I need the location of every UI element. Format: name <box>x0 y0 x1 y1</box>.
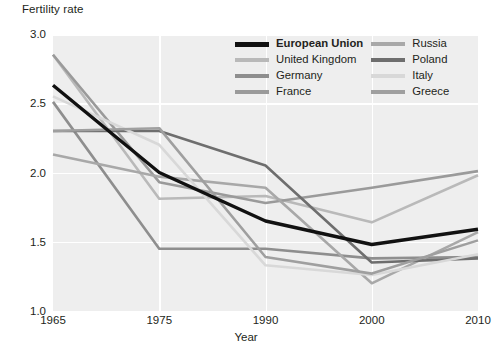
y-tick-label: 2.5 <box>2 97 46 109</box>
legend-color-swatch <box>235 58 269 62</box>
legend-item[interactable]: Germany <box>235 68 363 84</box>
y-tick-label: 3.0 <box>2 28 46 40</box>
legend-label: France <box>276 86 311 97</box>
y-tick-label: 1.5 <box>2 236 46 248</box>
legend-item[interactable]: Italy <box>371 68 467 84</box>
legend-label: Italy <box>412 70 433 81</box>
legend-item[interactable]: Poland <box>371 52 467 68</box>
legend-label: European Union <box>276 38 363 49</box>
legend-item[interactable]: France <box>235 84 363 100</box>
legend-label: Germany <box>276 70 322 81</box>
fertility-rate-line-chart: Fertility rate 1.01.52.02.53.0 196519751… <box>0 0 492 350</box>
chart-legend: European UnionRussiaUnited KingdomPoland… <box>235 36 467 100</box>
legend-color-swatch <box>235 42 269 47</box>
x-tick-label: 2010 <box>448 314 492 326</box>
x-tick-label: 1990 <box>236 314 296 326</box>
x-axis-title: Year <box>0 331 492 343</box>
x-tick-label: 2000 <box>342 314 402 326</box>
legend-color-swatch <box>371 58 405 62</box>
legend-color-swatch <box>235 74 269 78</box>
legend-color-swatch <box>235 90 269 94</box>
legend-color-swatch <box>371 42 405 46</box>
y-tick-label: 2.0 <box>2 167 46 179</box>
legend-item[interactable]: Greece <box>371 84 467 100</box>
legend-label: Poland <box>412 54 447 65</box>
legend-item[interactable]: Russia <box>371 36 467 52</box>
legend-label: Greece <box>412 86 449 97</box>
x-tick-label: 1965 <box>23 314 83 326</box>
legend-label: United Kingdom <box>276 54 356 65</box>
legend-color-swatch <box>371 90 405 94</box>
legend-label: Russia <box>412 38 447 49</box>
legend-item[interactable]: United Kingdom <box>235 52 363 68</box>
legend-item[interactable]: European Union <box>235 36 363 52</box>
x-tick-label: 1975 <box>129 314 189 326</box>
legend-color-swatch <box>371 74 405 78</box>
